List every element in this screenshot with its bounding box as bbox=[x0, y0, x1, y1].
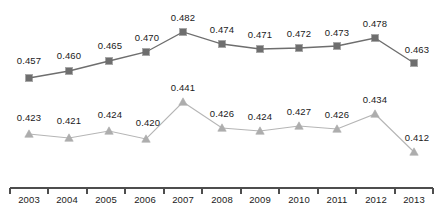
series-1-marker bbox=[334, 43, 341, 50]
x-axis-tick-label: 2012 bbox=[365, 195, 387, 205]
series-1-data-label: 0.471 bbox=[248, 30, 272, 40]
series-1-markers bbox=[26, 29, 418, 82]
x-axis-tick-label: 2006 bbox=[134, 195, 156, 205]
x-axis-tick-label: 2005 bbox=[95, 195, 117, 205]
series-2-data-label: 0.412 bbox=[405, 133, 429, 143]
series-1-line bbox=[29, 32, 414, 78]
x-axis-tick-label: 2003 bbox=[18, 195, 40, 205]
series-2-marker bbox=[371, 110, 379, 117]
x-axis-tick-label: 2004 bbox=[56, 195, 78, 205]
series-2-data-label: 0.426 bbox=[325, 110, 349, 120]
line-chart: 0.4570.4600.4650.4700.4820.4740.4710.472… bbox=[0, 0, 437, 217]
series-1-data-label: 0.482 bbox=[171, 13, 195, 23]
series-1-marker bbox=[143, 49, 150, 56]
x-axis-tick-label: 2010 bbox=[288, 195, 310, 205]
x-axis-tick-label: 2007 bbox=[172, 195, 194, 205]
series-2-marker bbox=[25, 130, 33, 137]
series-1-marker bbox=[296, 45, 303, 52]
x-axis-tick-label: 2008 bbox=[211, 195, 233, 205]
series-1-data-label: 0.457 bbox=[17, 56, 41, 66]
series-1-marker bbox=[26, 75, 33, 82]
series-2-data-label: 0.423 bbox=[17, 113, 41, 123]
series-1-marker bbox=[411, 60, 418, 67]
series-2-marker bbox=[105, 127, 113, 134]
series-2-data-label: 0.434 bbox=[363, 95, 387, 105]
series-1-data-label: 0.463 bbox=[405, 45, 429, 55]
series-2-data-label: 0.424 bbox=[248, 112, 272, 122]
series-1-data-label: 0.473 bbox=[325, 28, 349, 38]
series-2-data-label: 0.426 bbox=[210, 109, 234, 119]
series-2-data-label: 0.441 bbox=[171, 83, 195, 93]
series-1-data-label: 0.465 bbox=[98, 41, 122, 51]
series-1-data-label: 0.470 bbox=[135, 33, 159, 43]
series-1-data-label: 0.478 bbox=[363, 19, 387, 29]
series-2-markers bbox=[25, 98, 418, 155]
series-1-data-label: 0.460 bbox=[57, 51, 81, 61]
series-2-data-label: 0.427 bbox=[287, 107, 311, 117]
series-1-data-label: 0.474 bbox=[210, 25, 234, 35]
series-1-marker bbox=[219, 41, 226, 48]
series-1-data-label: 0.472 bbox=[287, 29, 311, 39]
x-axis-tick-label: 2009 bbox=[249, 195, 271, 205]
series-1-marker bbox=[372, 35, 379, 42]
series-2-marker bbox=[218, 124, 226, 131]
series-2-data-label: 0.424 bbox=[98, 110, 122, 120]
series-1-marker bbox=[180, 29, 187, 36]
series-2-data-label: 0.421 bbox=[57, 116, 81, 126]
series-2-marker bbox=[295, 122, 303, 129]
x-axis-tick-label: 2011 bbox=[327, 195, 348, 205]
series-1-marker bbox=[66, 68, 73, 75]
series-2-marker bbox=[179, 98, 187, 105]
x-axis-tick-label: 2013 bbox=[403, 195, 425, 205]
series-2-data-label: 0.420 bbox=[136, 118, 160, 128]
series-1-marker bbox=[106, 58, 113, 65]
series-1-marker bbox=[257, 46, 264, 53]
